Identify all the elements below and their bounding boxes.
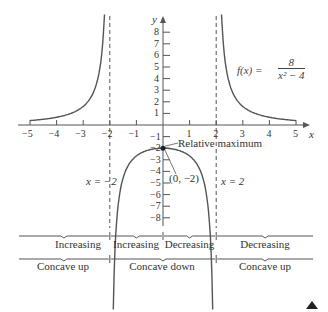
y-tick-label: 4 bbox=[154, 73, 159, 85]
y-tick-label: −8 bbox=[150, 212, 161, 224]
band-conc-2: Concave down bbox=[108, 260, 216, 272]
y-tick-label: −4 bbox=[150, 165, 161, 177]
y-tick-label: −1 bbox=[150, 131, 161, 143]
y-tick-label: −7 bbox=[150, 200, 161, 212]
x-axis-label: x bbox=[309, 128, 314, 140]
rel-max-leader bbox=[165, 143, 178, 146]
x-tick-label: 4 bbox=[266, 128, 271, 140]
y-tick-label: −2 bbox=[150, 142, 161, 154]
y-axis-label: y bbox=[152, 13, 157, 25]
asymptote-right-label: x = 2 bbox=[221, 175, 244, 187]
triangle-marker-icon bbox=[305, 298, 319, 310]
y-tick-label: −3 bbox=[150, 154, 161, 166]
y-tick-label: 5 bbox=[154, 61, 159, 73]
band-mono-4: Decreasing bbox=[215, 238, 315, 250]
point-leader bbox=[165, 150, 176, 174]
y-tick-label: 2 bbox=[154, 96, 159, 108]
y-tick-label: 6 bbox=[154, 49, 159, 61]
point-label: (0, −2) bbox=[169, 172, 199, 184]
y-tick-label: 7 bbox=[154, 38, 159, 50]
function-prefix: f(x) = bbox=[237, 64, 262, 76]
y-tick-label: 8 bbox=[154, 26, 159, 38]
function-numerator: 8 bbox=[278, 56, 305, 69]
x-tick-label: −4 bbox=[49, 128, 60, 140]
y-tick-label: −6 bbox=[150, 189, 161, 201]
function-denominator: x² − 4 bbox=[278, 69, 305, 81]
band-mono-2: Increasing bbox=[108, 238, 164, 250]
axes bbox=[18, 16, 310, 226]
asymptote-left-label: x = −2 bbox=[86, 175, 117, 187]
band-conc-1: Concave up bbox=[18, 260, 108, 272]
curve-left-branch bbox=[30, 15, 105, 121]
y-tick-label: 1 bbox=[154, 107, 159, 119]
x-tick-label: −1 bbox=[128, 128, 139, 140]
y-axis-arrow-icon bbox=[160, 16, 166, 23]
x-tick-label: 5 bbox=[293, 128, 298, 140]
x-tick-label: −3 bbox=[75, 128, 86, 140]
function-fraction: 8 x² − 4 bbox=[278, 56, 305, 81]
band-mono-3: Decreasing bbox=[163, 238, 216, 250]
x-tick-label: −5 bbox=[22, 128, 33, 140]
band-conc-3: Concave up bbox=[215, 260, 315, 272]
relative-maximum-label: Relative maximum bbox=[178, 137, 262, 149]
x-tick-label: −2 bbox=[102, 128, 113, 140]
y-tick-label: 3 bbox=[154, 84, 159, 96]
relative-maximum-point bbox=[161, 146, 166, 151]
y-tick-label: −5 bbox=[150, 177, 161, 189]
